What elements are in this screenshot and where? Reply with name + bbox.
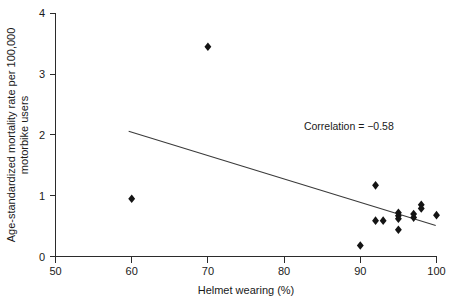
data-point-marker [395, 225, 402, 234]
y-tick-label-3: 3 [39, 68, 45, 80]
y-tick-label-4: 4 [39, 7, 45, 19]
x-tick-label-70: 70 [202, 265, 214, 277]
trend-line [129, 131, 436, 225]
data-point-marker [433, 211, 440, 220]
data-point-marker [380, 216, 387, 225]
data-points-group [128, 42, 440, 249]
y-axis-ticks [50, 13, 56, 256]
data-point-marker [372, 181, 379, 190]
y-tick-label-2: 2 [39, 129, 45, 141]
y-tick-label-0: 0 [39, 251, 45, 263]
y-tick-label-1: 1 [39, 190, 45, 202]
data-point-marker [204, 42, 211, 51]
data-point-marker [128, 194, 135, 203]
chart-canvas: 0 1 2 3 4 50 60 70 80 90 100 Helmet wear… [0, 0, 453, 301]
data-point-marker [357, 241, 364, 250]
x-tick-label-80: 80 [278, 265, 290, 277]
data-point-marker [372, 216, 379, 225]
x-tick-label-50: 50 [49, 265, 61, 277]
x-axis-tick-labels: 50 60 70 80 90 100 [49, 265, 445, 277]
x-tick-label-90: 90 [354, 265, 366, 277]
x-axis-ticks [56, 257, 437, 263]
y-axis-title-line-2: motorbike users [18, 95, 30, 174]
y-axis-tick-labels: 0 1 2 3 4 [39, 7, 45, 262]
x-axis-title: Helmet wearing (%) [198, 284, 295, 296]
x-tick-label-60: 60 [126, 265, 138, 277]
y-axis-title-line-1: Age-standardized mortality rate per 100,… [5, 28, 17, 243]
correlation-annotation: Correlation = −0.58 [304, 120, 394, 132]
scatter-chart-figure: 0 1 2 3 4 50 60 70 80 90 100 Helmet wear… [0, 0, 453, 301]
x-tick-label-100: 100 [427, 265, 445, 277]
